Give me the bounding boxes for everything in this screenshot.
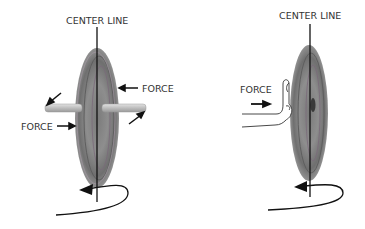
right-force-label: FORCE [240, 84, 272, 95]
left-center-line-label: CENTER LINE [66, 15, 128, 26]
right-wheel [290, 45, 328, 181]
right-center-line-label: CENTER LINE [279, 10, 341, 21]
left-panel [45, 27, 146, 215]
right-panel [242, 24, 343, 210]
diagram-canvas [0, 0, 365, 229]
right-force-arrow [251, 101, 270, 107]
left-force-label-right: FORCE [142, 83, 174, 94]
left-force-label-left: FORCE [21, 121, 53, 132]
right-rotation-arrow [268, 181, 343, 210]
left-rotation-arrow [56, 184, 128, 215]
